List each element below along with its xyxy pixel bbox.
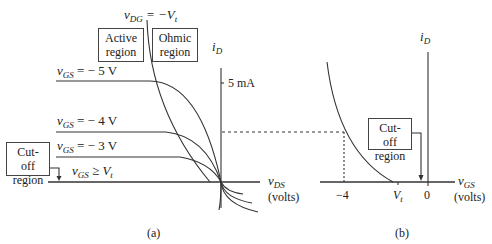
curve-neg-3 (221, 182, 258, 212)
vgs-minus5-label: vGS = − 5 V (57, 64, 117, 77)
vgs-axis-label: vGS (458, 174, 475, 187)
tick-vt: Vt (393, 188, 403, 203)
a-volts-label: (volts) (268, 190, 299, 205)
vds-label: vDS (268, 174, 285, 187)
vgs-minus3-label: vGS = − 3 V (57, 139, 117, 152)
b-cutoff-leader (411, 133, 421, 176)
a-id-label: iD (212, 40, 222, 53)
vgs-ge-vt-label: vGS ≥ Vt (72, 164, 113, 177)
vgs-minus4-label: vGS = − 4 V (57, 114, 117, 127)
caption-b: (b) (395, 226, 409, 241)
active-region-box: Activeregion (98, 28, 144, 62)
tick-zero: 0 (424, 188, 430, 203)
5ma-label: 5 mA (228, 76, 255, 91)
b-cutoff-region-box: Cut-offregion (368, 118, 412, 150)
tick-minus4: −4 (336, 188, 349, 203)
b-id-label: iD (420, 30, 430, 43)
a-cutoff-region-box: Cut-offregion (6, 142, 50, 176)
b-volts-label: (volts) (454, 190, 485, 205)
vdg-label: vDG = −Vt (124, 8, 177, 21)
ohmic-region-box: Ohmicregion (152, 28, 198, 62)
caption-a: (a) (147, 226, 160, 241)
